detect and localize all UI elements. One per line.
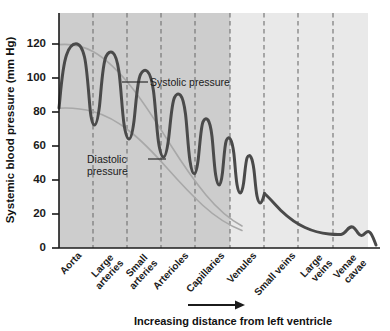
y-tick-label-120: 120 [27, 37, 46, 49]
y-tick-label-40: 40 [33, 173, 46, 185]
y-tick-marks [52, 44, 59, 248]
y-tick-label-100: 100 [27, 71, 46, 83]
category-label-group: Aorta Large arteries Small arteries Arte… [58, 250, 369, 298]
x-axis-title: Increasing distance from left ventricle [134, 315, 332, 327]
y-tick-label-60: 60 [33, 139, 46, 151]
y-tick-label-0: 0 [40, 241, 46, 253]
diastolic-annotation-line1: Diastolic [87, 153, 127, 165]
plot-band-venous [230, 13, 368, 248]
y-tick-label-80: 80 [33, 105, 46, 117]
direction-arrow [188, 301, 245, 310]
category-label-capillaries: Capillaries [184, 250, 227, 295]
category-label-large-arteries: Large arteries [85, 250, 126, 292]
diastolic-annotation-line2: pressure [87, 165, 128, 177]
category-label-aorta: Aorta [58, 250, 84, 277]
direction-arrow-head [235, 301, 245, 310]
blood-pressure-figure: 120 100 80 60 40 20 0 Systemic blood pre… [0, 0, 390, 331]
diastolic-annotation: Diastolic pressure [87, 153, 130, 177]
chart-svg: 120 100 80 60 40 20 0 Systemic blood pre… [0, 0, 390, 331]
category-label-venules: Venules [225, 250, 259, 285]
category-label-small-veins: Small veins [252, 250, 298, 298]
y-axis-title: Systemic blood pressure (mm Hg) [4, 37, 16, 224]
systolic-annotation: Systolic pressure [150, 76, 230, 88]
y-tick-label-20: 20 [33, 207, 46, 219]
category-label-large-veins: Large veins [298, 250, 335, 287]
category-label-venae-cavae: Venae cavae [331, 250, 369, 289]
